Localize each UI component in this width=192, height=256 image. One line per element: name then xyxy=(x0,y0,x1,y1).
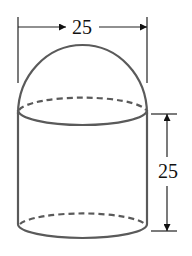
width-label: 25 xyxy=(72,16,92,38)
height-dimension: 25 xyxy=(151,114,178,231)
cylinder-top-front-edge xyxy=(18,110,147,125)
cylinder-base-hidden-edge xyxy=(20,213,145,224)
hemisphere-base-hidden-edge xyxy=(19,98,146,110)
hemisphere xyxy=(18,45,147,114)
diagram-stage: 25 25 xyxy=(0,0,192,256)
cylinder xyxy=(18,110,147,238)
cylinder-base-front-edge xyxy=(18,224,147,238)
composite-solid-diagram: 25 25 xyxy=(0,0,192,256)
height-label: 25 xyxy=(158,160,178,182)
hemisphere-outline xyxy=(18,45,147,114)
width-dimension: 25 xyxy=(18,16,147,83)
